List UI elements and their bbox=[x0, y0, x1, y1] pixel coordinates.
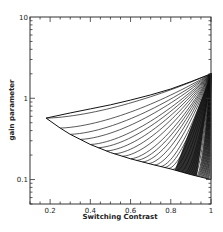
x-axis-label: Switching Contrast bbox=[82, 213, 158, 221]
y-tick-label: 10 bbox=[19, 14, 28, 22]
x-tick-label: 0.8 bbox=[165, 207, 176, 215]
curve-family bbox=[46, 74, 211, 179]
y-axis-label: gain parameter bbox=[8, 79, 16, 141]
x-tick-label: 1 bbox=[209, 207, 213, 215]
chart: 0.20.40.60.81 0.1110 Switching Contrast … bbox=[0, 0, 223, 232]
y-tick-label: 1 bbox=[24, 95, 28, 103]
y-tick-label: 0.1 bbox=[17, 176, 28, 184]
x-tick-label: 0.2 bbox=[45, 207, 56, 215]
